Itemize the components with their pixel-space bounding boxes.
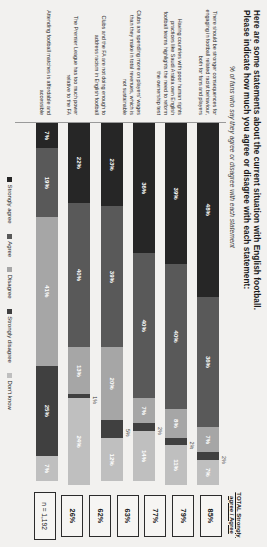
legend-swatch-icon: [8, 309, 13, 314]
stacked-bar: 36%40%7%2%14%: [133, 123, 155, 485]
legend-swatch-icon: [8, 373, 13, 378]
legend-swatch-icon: [8, 234, 13, 239]
bar-segment-outside-label-strongly_disagree: 2%: [221, 456, 227, 464]
bar-segment-strongly_agree: 39%: [165, 123, 187, 264]
legend-item[interactable]: Don't know: [7, 373, 13, 410]
bar-segment-dont_know: 14%: [133, 431, 155, 482]
bar-segment-dont_know: 24%: [68, 398, 90, 485]
bar-segment-strongly_agree: 36%: [133, 123, 155, 253]
legend-label: Don't know: [7, 380, 13, 410]
bar-segment-agree: 40%: [68, 203, 90, 348]
bar-segment-dont_know: 12%: [101, 438, 123, 481]
stacked-bar: 22%40%13%1%24%: [68, 123, 90, 485]
stacked-bar: 39%40%8%2%11%: [165, 123, 187, 485]
bar-segment-strongly_disagree: 25%: [36, 366, 58, 457]
statement-label: Attending football matches is affordable…: [38, 6, 52, 118]
bar-segment-agree: 19%: [36, 148, 58, 217]
bar-segment-outside-label-strongly_disagree: 2%: [157, 427, 163, 435]
chart-title-line1: Here are some statements about the curre…: [251, 10, 261, 543]
bar-segment-strongly_disagree: [197, 452, 219, 459]
stacked-bar: 23%39%20%5%12%: [101, 123, 123, 485]
bar-column: 48%36%7%2%7%39%40%8%2%11%36%40%7%2%14%23…: [15, 122, 227, 487]
legend-item[interactable]: Agree: [7, 234, 13, 258]
bar-segment-agree: 40%: [165, 264, 187, 409]
bar-segment-dont_know: 7%: [197, 460, 219, 485]
legend-item[interactable]: Disagree: [7, 267, 13, 299]
bar-segment-agree: 39%: [101, 206, 123, 347]
legend-item[interactable]: Strongly agree: [7, 177, 13, 224]
chart-subtitle: % of fans who say they agree or disagree…: [230, 66, 237, 543]
bar-segment-disagree: 13%: [68, 347, 90, 394]
chart-legend: Strongly agreeAgreeDisagreeStrongly disa…: [4, 44, 15, 543]
bar-segment-disagree: 41%: [36, 217, 58, 365]
legend-label: Disagree: [7, 275, 13, 299]
survey-stacked-bar-chart: Here are some statements about the curre…: [0, 0, 267, 547]
bar-segment-disagree: 7%: [197, 427, 219, 452]
total-value-box: 63%: [117, 495, 139, 537]
statement-label: Clubs are spending more on players' wage…: [121, 6, 142, 118]
bar-segment-strongly_disagree: [133, 423, 155, 430]
legend-label: Strongly agree: [7, 185, 13, 224]
chart-header: Here are some statements about the curre…: [230, 4, 262, 543]
total-value-box: 79%: [172, 495, 194, 537]
bar-segment-dont_know: 11%: [165, 445, 187, 485]
stacked-bar: 48%36%7%2%7%: [197, 123, 219, 485]
bar-segment-outside-label-strongly_disagree: 5%: [125, 429, 131, 437]
rotated-chart-canvas: Here are some statements about the curre…: [0, 0, 267, 547]
bar-segment-dont_know: 7%: [36, 456, 58, 481]
bar-segment-outside-label-strongly_disagree: 2%: [189, 442, 195, 450]
legend-swatch-icon: [8, 267, 13, 272]
legend-swatch-icon: [8, 177, 13, 182]
bar-segment-strongly_disagree: [165, 438, 187, 445]
bar-segment-strongly_agree: 48%: [197, 123, 219, 297]
bar-segment-agree: 36%: [197, 297, 219, 427]
legend-item[interactable]: Strongly disagree: [7, 309, 13, 363]
total-value-box: 77%: [144, 495, 166, 537]
bar-segment-strongly_agree: 7%: [36, 123, 58, 148]
chart-title-line2: Please indicate how much you agree or di…: [241, 10, 251, 543]
total-value-box: 85%: [200, 495, 222, 537]
statement-label: There should be stronger consequences fo…: [197, 6, 218, 118]
bar-segment-outside-label-strongly_disagree: 1%: [92, 396, 98, 404]
statement-label-column: There should be stronger consequences fo…: [15, 4, 227, 122]
bar-segment-strongly_agree: 22%: [68, 123, 90, 203]
bar-segment-agree: 40%: [133, 253, 155, 398]
legend-label: Agree: [7, 241, 13, 257]
bar-segment-disagree: 8%: [165, 409, 187, 438]
stacked-bar: 7%19%41%25%7%: [36, 123, 58, 485]
sample-size-box: n = 1,192: [34, 492, 56, 540]
statement-label: Having countries with poor human rights …: [155, 6, 183, 118]
legend-label: Strongly disagree: [7, 316, 13, 363]
bar-segment-strongly_disagree: [101, 420, 123, 438]
statement-label: Clubs and the FA are not doing enough to…: [93, 6, 107, 118]
total-column: TOTAL Strongly agree / Agree 85% 79% 77%…: [15, 487, 227, 543]
bar-segment-disagree: 7%: [133, 398, 155, 423]
bar-segment-strongly_agree: 23%: [101, 123, 123, 206]
statement-label: The Premier League has too much power re…: [65, 6, 79, 118]
total-column-header: TOTAL Strongly agree / Agree: [228, 487, 242, 543]
total-value-box: 62%: [89, 495, 111, 537]
total-value-box: 26%: [61, 495, 83, 537]
bar-segment-disagree: 20%: [101, 347, 123, 419]
plot-area: There should be stronger consequences fo…: [15, 4, 227, 543]
